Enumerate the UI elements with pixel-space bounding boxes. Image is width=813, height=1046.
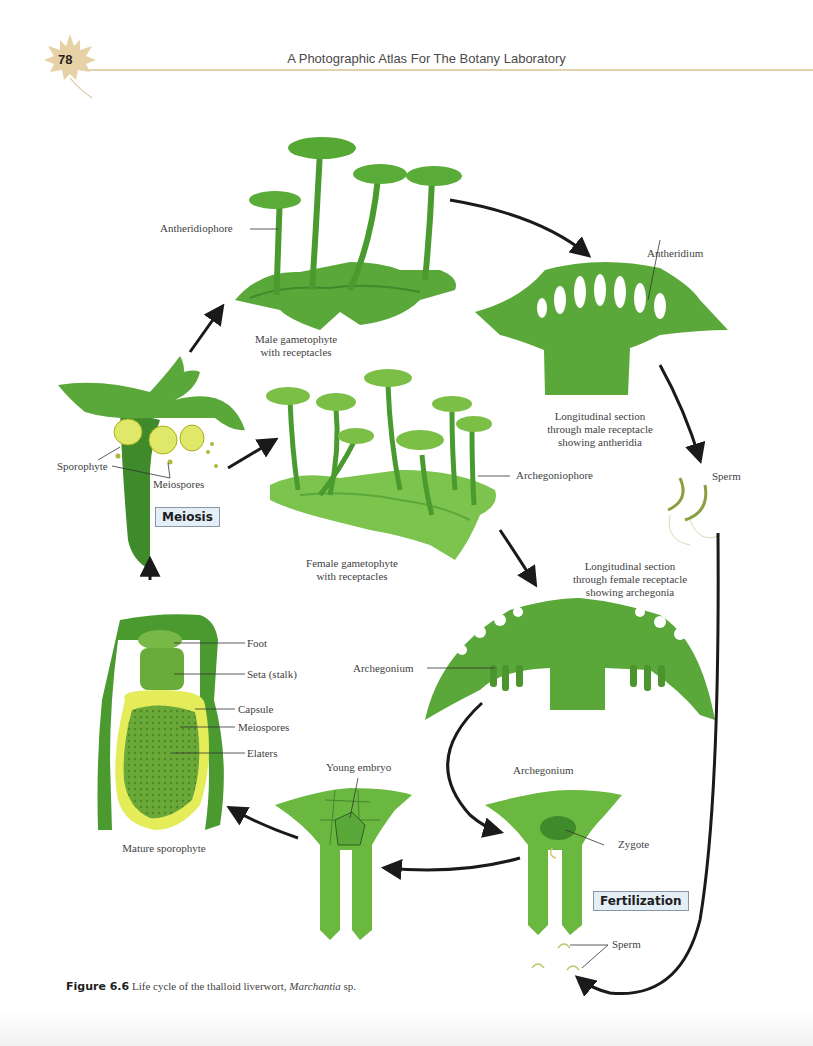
life-cycle-diagram [0, 0, 813, 1046]
label-meiospores: Meiospores [238, 721, 289, 734]
figure-caption-text: Life cycle of the thalloid liverwort, [132, 980, 287, 992]
male-receptacle-section-illustration [475, 240, 728, 395]
label-sperm-bottom: Sperm [612, 938, 641, 951]
caption-male-gametophyte-1: Male gametophyte [226, 333, 366, 346]
label-archegonium-section: Archegonium [353, 662, 413, 675]
label-antheridiophore: Antheridiophore [160, 222, 233, 235]
label-archegoniophore: Archegoniophore [516, 469, 593, 482]
figure-caption-genus: Marchantia [289, 980, 341, 992]
young-embryo-illustration [275, 778, 412, 940]
caption-female-section-3: showing archegonia [545, 586, 715, 599]
caption-female-section-2: through female receptacle [545, 573, 715, 586]
label-meiospores-top: Meiospores [153, 478, 204, 491]
label-sporophyte: Sporophyte [57, 460, 108, 473]
sperm-top-illustration [668, 478, 720, 545]
caption-female-gametophyte-1: Female gametophyte [282, 557, 422, 570]
meiosis-box: Meiosis [155, 507, 220, 527]
figure-label: Figure 6.6 [66, 980, 129, 993]
label-archegonium: Archegonium [513, 764, 573, 777]
female-gametophyte-illustration [266, 369, 496, 560]
label-young-embryo: Young embryo [326, 761, 391, 774]
label-sperm-top: Sperm [712, 470, 741, 483]
caption-mature-sporophyte: Mature sporophyte [104, 842, 224, 855]
label-antheridium: Antheridium [647, 247, 703, 260]
caption-male-section-2: through male receptacle [520, 423, 680, 436]
label-capsule: Capsule [238, 703, 273, 716]
male-gametophyte-illustration [235, 137, 462, 330]
caption-female-gametophyte-2: with receptacles [282, 570, 422, 583]
figure-caption-suffix: sp. [344, 980, 357, 992]
female-receptacle-section-illustration [425, 598, 715, 720]
sperm-bottom-illustration [532, 944, 608, 970]
mature-sporophyte-illustration [98, 614, 246, 830]
figure-caption: Figure 6.6 Life cycle of the thalloid li… [66, 980, 356, 993]
fertilization-box: Fertilization [593, 891, 689, 911]
caption-male-gametophyte-2: with receptacles [226, 346, 366, 359]
caption-male-section-3: showing antheridia [520, 436, 680, 449]
label-zygote: Zygote [618, 838, 649, 851]
page-bottom-shadow [0, 1010, 813, 1046]
label-seta: Seta (stalk) [247, 668, 297, 681]
caption-male-section-1: Longitudinal section [520, 410, 680, 423]
label-elaters: Elaters [247, 747, 278, 760]
label-foot: Foot [247, 637, 267, 650]
caption-female-section-1: Longitudinal section [545, 560, 715, 573]
